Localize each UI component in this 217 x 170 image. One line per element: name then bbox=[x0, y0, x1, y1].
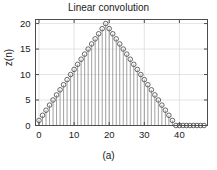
y-tick-label: 15 bbox=[9, 43, 31, 54]
tick-marks bbox=[36, 20, 208, 126]
plot-area bbox=[0, 0, 217, 170]
x-tick-label: 0 bbox=[28, 129, 50, 140]
x-tick-label: 40 bbox=[168, 129, 190, 140]
y-tick-label: 20 bbox=[9, 18, 31, 29]
linear-convolution-figure: Linear convolution z(n) 0510152001020304… bbox=[0, 0, 217, 170]
figure-caption: (a) bbox=[0, 150, 217, 161]
y-tick-label: 10 bbox=[9, 69, 31, 80]
x-tick-label: 10 bbox=[63, 129, 85, 140]
axes-box bbox=[36, 20, 208, 126]
x-tick-label: 20 bbox=[98, 129, 120, 140]
gridlines bbox=[36, 20, 208, 126]
x-tick-label: 30 bbox=[133, 129, 155, 140]
y-tick-label: 5 bbox=[9, 94, 31, 105]
